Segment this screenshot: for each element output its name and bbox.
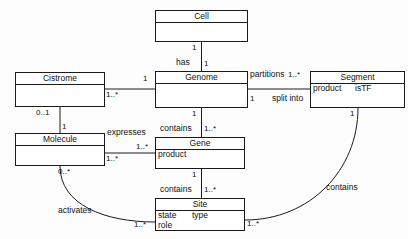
edge-label-contains-segment-site: contains: [326, 183, 358, 192]
class-box-site[interactable]: Site statetype role: [155, 198, 245, 231]
class-attr-site-role: role: [158, 221, 172, 231]
mult-cistrome-right: 1..*: [106, 90, 118, 99]
mult-molecule-top: 1: [62, 122, 66, 131]
mult-genome-top: 1: [204, 59, 208, 68]
edge-segment-contains-site: [245, 108, 358, 220]
class-attr-gene-product: product: [158, 150, 186, 160]
class-attr-row: role: [158, 221, 244, 231]
class-box-cell[interactable]: Cell: [155, 10, 248, 42]
class-name-genome: Genome: [156, 72, 247, 84]
class-attr-segment-product: product: [313, 84, 355, 94]
class-box-cistrome[interactable]: Cistrome: [15, 72, 105, 107]
edge-label-contains-gene-site: contains: [160, 185, 192, 194]
mult-cell-bottom: 1: [192, 43, 196, 52]
class-attr-row: productisTF: [313, 84, 404, 94]
class-box-genome[interactable]: Genome: [155, 71, 248, 108]
mult-gene-left: 1..*: [106, 154, 118, 163]
class-attr-row: product: [158, 150, 244, 160]
mult-site-right-bottom: 1..*: [247, 219, 259, 228]
mult-gene-top: 1..*: [204, 124, 216, 133]
class-box-molecule[interactable]: Molecule: [15, 133, 105, 166]
edge-label-partitions: partitions: [250, 70, 285, 79]
class-attr-site-type: type: [192, 211, 208, 221]
class-box-gene[interactable]: Gene product: [155, 137, 245, 169]
uml-class-diagram: Cell Cistrome Genome Segment productisTF…: [0, 0, 408, 239]
mult-molecule-bottom: 0..*: [58, 167, 70, 176]
class-name-cell: Cell: [156, 11, 247, 23]
edge-label-activates: activates: [58, 206, 92, 215]
mult-cistrome-bottom: 0..1: [36, 108, 49, 117]
class-attr-segment-istf: isTF: [355, 84, 372, 94]
mult-genome-left: 1: [143, 74, 147, 83]
mult-molecule-right-upper: 1..*: [136, 142, 148, 151]
class-name-cistrome: Cistrome: [16, 73, 104, 85]
class-attrs-site: statetype role: [156, 211, 244, 230]
edge-label-contains-genome-gene: contains: [160, 124, 192, 133]
class-attrs-segment: productisTF: [311, 84, 404, 94]
mult-segment-bottom: 1: [350, 109, 354, 118]
edge-label-has: has: [176, 58, 190, 67]
mult-segment-left-top: 1..*: [288, 70, 300, 79]
edge-label-split-into: split into: [272, 94, 303, 103]
mult-genome-right-bottom: 1: [250, 94, 254, 103]
class-attrs-gene: product: [156, 150, 244, 160]
mult-gene-bottom: 1: [192, 170, 196, 179]
mult-genome-bottom: 1: [192, 109, 196, 118]
mult-site-left-bottom: 1..*: [134, 220, 146, 229]
mult-site-top: 1..*: [204, 185, 216, 194]
class-box-segment[interactable]: Segment productisTF: [310, 71, 405, 108]
edge-label-expresses: expresses: [107, 128, 146, 137]
class-name-molecule: Molecule: [16, 134, 104, 146]
